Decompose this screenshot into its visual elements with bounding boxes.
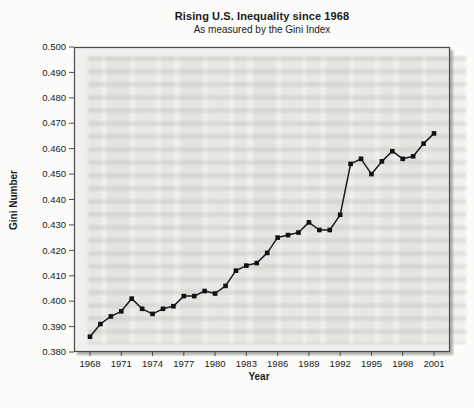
svg-text:0.480: 0.480 — [42, 92, 66, 103]
svg-text:0.410: 0.410 — [42, 270, 66, 281]
svg-text:0.440: 0.440 — [42, 194, 66, 205]
svg-text:1977: 1977 — [173, 358, 194, 369]
axis-frame — [75, 48, 450, 352]
svg-text:1986: 1986 — [267, 358, 288, 369]
y-axis-title: Gini Number — [8, 170, 19, 230]
scanned-chart-page: Rising U.S. Inequality since 1968 As mea… — [0, 0, 474, 408]
svg-text:0.460: 0.460 — [42, 143, 66, 154]
x-axis-title: Year — [74, 371, 444, 382]
svg-text:0.420: 0.420 — [42, 245, 66, 256]
svg-text:0.490: 0.490 — [42, 67, 66, 78]
svg-text:1992: 1992 — [330, 358, 351, 369]
svg-text:1980: 1980 — [205, 358, 226, 369]
y-axis-ticks: 0.3800.3900.4000.4100.4200.4300.4400.450… — [42, 41, 74, 357]
svg-text:0.450: 0.450 — [42, 168, 66, 179]
x-axis-ticks: 1968197119741977198019831986198919921995… — [79, 352, 444, 369]
data-line — [90, 133, 434, 336]
svg-text:0.500: 0.500 — [42, 41, 66, 52]
svg-text:1983: 1983 — [236, 358, 257, 369]
gini-line-chart: 0.3800.3900.4000.4100.4200.4300.4400.450… — [0, 0, 474, 408]
data-points — [88, 131, 437, 339]
svg-text:0.400: 0.400 — [42, 295, 66, 306]
svg-text:2001: 2001 — [423, 358, 444, 369]
svg-text:0.390: 0.390 — [42, 321, 66, 332]
svg-text:1995: 1995 — [361, 358, 382, 369]
svg-text:0.470: 0.470 — [42, 117, 66, 128]
svg-text:0.380: 0.380 — [42, 346, 66, 357]
svg-text:1974: 1974 — [142, 358, 163, 369]
svg-text:1971: 1971 — [111, 358, 132, 369]
svg-text:1968: 1968 — [79, 358, 100, 369]
svg-text:0.430: 0.430 — [42, 219, 66, 230]
svg-text:1998: 1998 — [392, 358, 413, 369]
svg-text:1989: 1989 — [298, 358, 319, 369]
